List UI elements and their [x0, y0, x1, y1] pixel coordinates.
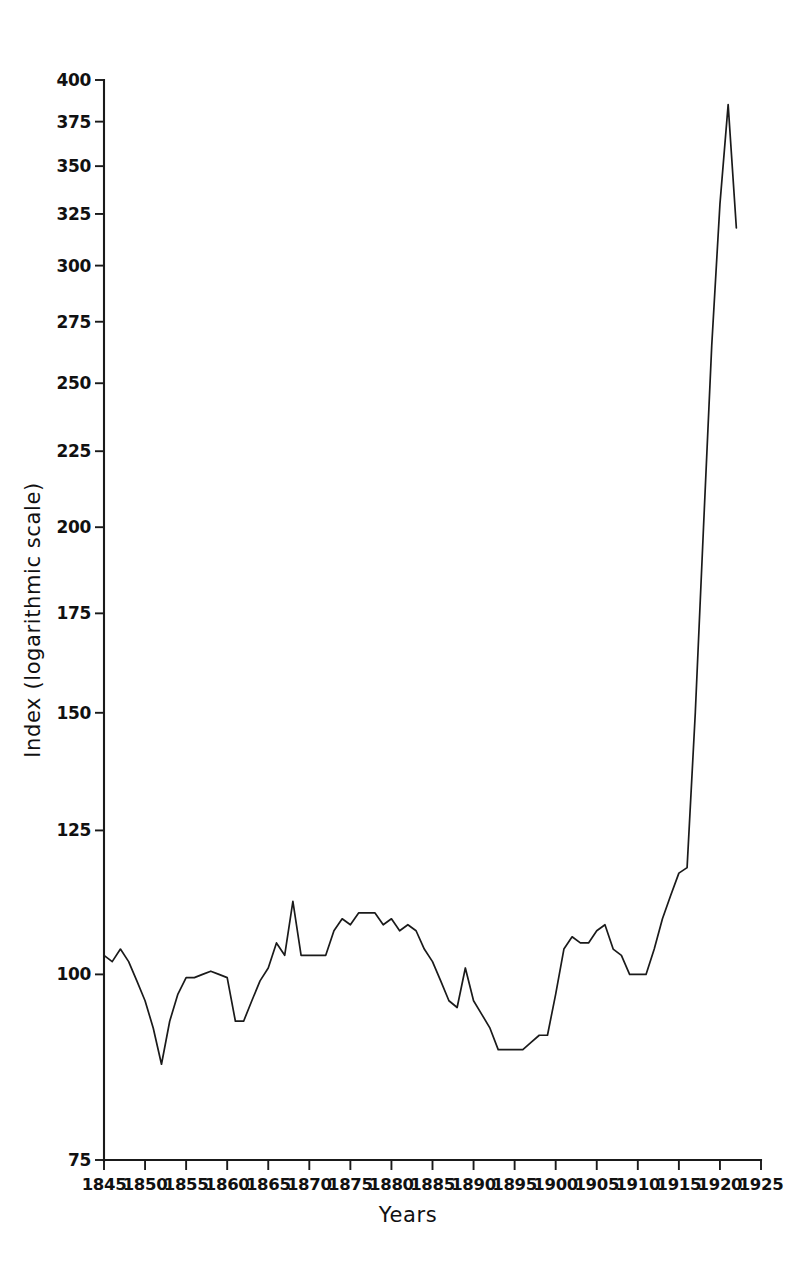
- y-tick-label: 200: [56, 517, 91, 537]
- x-tick-label: 1905: [574, 1175, 619, 1194]
- x-tick-label: 1845: [82, 1175, 127, 1194]
- y-tick-label: 175: [56, 603, 91, 623]
- x-tick-label: 1870: [287, 1175, 332, 1194]
- x-tick-label: 1885: [410, 1175, 455, 1194]
- x-tick-label: 1925: [739, 1175, 784, 1194]
- y-tick-label: 250: [56, 373, 91, 393]
- x-tick-label: 1860: [205, 1175, 250, 1194]
- x-tick-label: 1890: [451, 1175, 496, 1194]
- y-tick-label: 150: [56, 703, 91, 723]
- x-tick-label: 1900: [533, 1175, 578, 1194]
- chart-background: [0, 0, 803, 1283]
- x-tick-label: 1880: [369, 1175, 414, 1194]
- y-tick-label: 350: [56, 156, 91, 176]
- x-tick-label: 1850: [123, 1175, 168, 1194]
- x-tick-label: 1910: [615, 1175, 660, 1194]
- y-tick-label: 400: [56, 70, 91, 90]
- x-tick-label: 1915: [657, 1175, 702, 1194]
- y-tick-label: 275: [56, 312, 91, 332]
- line-chart-figure: 7510012515017520022525027530032535037540…: [0, 0, 803, 1283]
- x-tick-label: 1865: [246, 1175, 291, 1194]
- x-tick-label: 1920: [698, 1175, 743, 1194]
- y-tick-label: 325: [56, 204, 91, 224]
- y-tick-label: 375: [56, 112, 91, 132]
- y-tick-label: 75: [68, 1150, 91, 1170]
- y-tick-label: 100: [56, 964, 91, 984]
- y-tick-label: 125: [56, 820, 91, 840]
- y-tick-label: 225: [56, 441, 91, 461]
- x-axis-title: Years: [378, 1203, 437, 1227]
- x-tick-label: 1895: [492, 1175, 537, 1194]
- x-tick-group: 1845185018551860186518701875188018851890…: [82, 1160, 784, 1194]
- y-axis-title: Index (logarithmic scale): [21, 482, 45, 757]
- x-tick-label: 1855: [164, 1175, 209, 1194]
- x-tick-label: 1875: [328, 1175, 373, 1194]
- y-tick-label: 300: [56, 256, 91, 276]
